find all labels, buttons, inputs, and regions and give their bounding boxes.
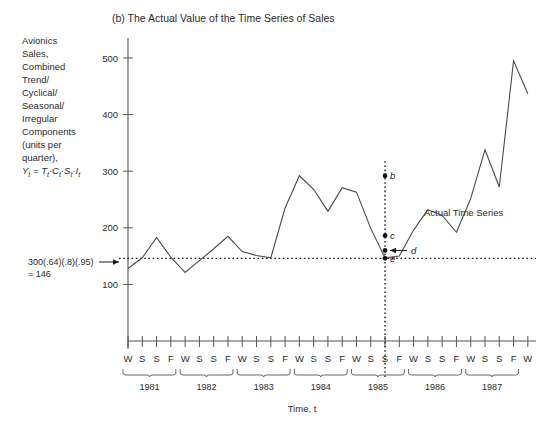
reference-label-line1: 300(.64)(.8)(.95) [28,257,94,267]
reference-arrow-head [113,259,119,265]
x-quarter-label: S [211,353,217,364]
annotation-label-b: b [390,170,395,181]
formula-eq: = [30,165,41,176]
year-label: 1981 [139,382,159,392]
x-quarter-label: S [482,353,488,364]
annotation-point-c [383,233,388,238]
ylabel-line-2: Combined [22,61,65,72]
annotation-label-c: c [390,230,395,241]
x-quarter-label: F [225,353,231,364]
year-brace [123,369,176,377]
ylabel-line-4: Cyclical/ [22,87,58,98]
x-quarter-label: F [339,353,345,364]
annotation-label-d: d [411,245,417,256]
x-quarter-label: S [425,353,431,364]
x-quarter-label: S [153,353,159,364]
year-label: 1987 [482,382,502,392]
chart-title: (b) The Actual Value of the Time Series … [112,12,335,24]
x-quarter-label: S [253,353,259,364]
x-axis-quarter-labels: WSSFWSSFWSSFWSSFWSSFWSSFWSSFW [124,353,533,364]
x-quarter-label: S [196,353,202,364]
formula-it-sub: t [78,171,81,178]
ylabel-line-3: Trend/ [22,74,49,85]
year-brace [180,369,233,377]
y-tick-label: 500 [102,53,118,64]
y-axis-label-block: Avionics Sales, Combined Trend/ Cyclical… [22,35,81,178]
x-quarter-label: F [168,353,174,364]
x-quarter-label: W [409,353,418,364]
x-quarter-label: W [523,353,532,364]
y-tick-label: 200 [102,222,118,233]
x-quarter-label: F [511,353,517,364]
time-series-chart: (b) The Actual Value of the Time Series … [0,0,553,427]
reference-line-annotation: 300(.64)(.8)(.95) = 146 [28,257,119,279]
year-label: 1984 [311,382,331,392]
x-quarter-label: S [496,353,502,364]
ylabel-line-5: Seasonal/ [22,100,65,111]
year-brace [294,369,347,377]
year-brace [466,369,519,377]
ylabel-line-6: Irregular [22,113,57,124]
ylabel-formula: Yt = Tt·Ct·St·It [22,165,81,178]
ylabel-line-1: Sales, [22,48,48,59]
ylabel-line-9: quarter), [22,152,58,163]
x-quarter-label: S [268,353,274,364]
annotation-point-b [383,173,388,178]
y-tick-label: 300 [102,166,118,177]
axes [128,38,536,349]
x-quarter-label: F [282,353,288,364]
ylabel-line-0: Avionics [22,35,57,46]
x-axis-year-group: 1981198219831984198519861987 [123,369,519,392]
x-quarter-label: S [310,353,316,364]
x-quarter-label: S [139,353,145,364]
x-axis-title: Time, t [288,403,317,414]
x-quarter-label: F [454,353,460,364]
annotation-label-e: e [390,253,395,264]
annotation-point-d [383,248,388,253]
x-quarter-label: W [124,353,133,364]
x-quarter-label: S [368,353,374,364]
y-tick-label: 400 [102,109,118,120]
chart-figure: (b) The Actual Value of the Time Series … [0,0,553,427]
actual-time-series-line [128,61,528,273]
year-label: 1986 [425,382,445,392]
ylabel-line-7: Components [22,126,76,137]
year-label: 1985 [368,382,388,392]
x-quarter-label: W [466,353,475,364]
year-brace [409,369,462,377]
x-quarter-label: W [295,353,304,364]
x-axis-title-text: Time, t [288,403,317,414]
x-quarter-label: W [238,353,247,364]
year-label: 1983 [254,382,274,392]
ylabel-line-8: (units per [22,139,62,150]
annotation-point-e [383,256,388,261]
y-tick-label: 100 [102,279,118,290]
year-label: 1982 [197,382,217,392]
reference-label-line2: = 146 [28,269,51,279]
point-annotations: bcde [383,170,417,264]
x-quarter-label: S [439,353,445,364]
x-quarter-label: S [325,353,331,364]
x-quarter-label: F [396,353,402,364]
x-quarter-label: W [181,353,190,364]
year-brace [351,369,404,377]
x-quarter-label: W [352,353,361,364]
year-brace [237,369,290,377]
series-label: Actual Time Series [424,207,503,218]
